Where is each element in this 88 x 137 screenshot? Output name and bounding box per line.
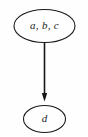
arrowhead-icon (42, 93, 47, 102)
node-abc-label: a, b, c (30, 19, 59, 31)
graph-canvas-svg: a, b, c d (0, 0, 88, 137)
graph-node-abc[interactable]: a, b, c (14, 10, 75, 43)
node-d-label: d (42, 112, 48, 124)
graph-edge-abc-to-d[interactable] (42, 43, 47, 102)
graph-node-d[interactable]: d (24, 106, 66, 133)
graph-diagram: a, b, c d (0, 0, 88, 137)
